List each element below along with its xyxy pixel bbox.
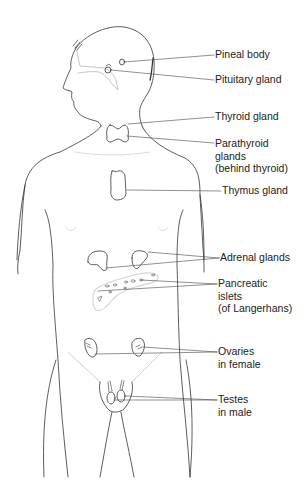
label-pineal-body: Pineal body [215,48,270,61]
ear-mark [150,58,153,80]
label-adrenal-glands: Adrenal glands [220,251,290,264]
scrotum [99,382,132,412]
thyroid-gland [107,125,129,142]
adrenal-gland-left [88,251,107,271]
left-arm-inner [45,210,68,477]
left-leg-inner [100,412,112,477]
label-thymus-gland: Thymus gland [222,184,288,197]
adrenal-gland-right [132,251,147,269]
groin [68,352,162,382]
hair-mark-icon [73,40,82,50]
label-parathyroid-glands: Parathyroid glands (behind thyroid) [215,137,288,175]
torso-outline [18,126,204,274]
collarbone [75,152,150,155]
right-leg-inner [121,412,134,477]
label-ovaries: Ovaries in female [218,345,261,370]
label-thyroid-gland: Thyroid gland [215,110,279,123]
left-leg-outer [44,360,57,477]
label-pituitary-gland: Pituitary gland [215,73,282,86]
chest-mark [66,227,168,231]
right-arm-inner [177,210,190,477]
label-testes: Testes in male [218,393,252,418]
thymus-gland [111,171,126,200]
pancreatic-islets [98,274,155,301]
label-pancreatic-islets: Pancreatic islets (of Langerhans) [218,277,292,315]
testis-left [107,392,115,404]
pancreas [93,273,158,311]
